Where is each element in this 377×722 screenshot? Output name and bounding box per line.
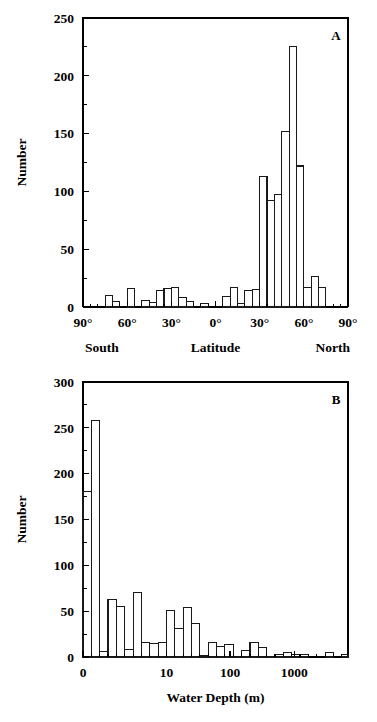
x-tick-label-a: 90° <box>339 315 358 330</box>
histogram-bar <box>112 301 119 307</box>
plot-area-b: 0501001502002503000101001000 <box>54 375 348 680</box>
y-tick-label-b: 50 <box>61 604 75 619</box>
histogram-bar <box>175 629 183 657</box>
histogram-bar <box>150 643 158 657</box>
x-axis-title-a: Latitude <box>191 340 241 355</box>
histogram-bar <box>171 287 178 307</box>
bars-b <box>83 421 348 658</box>
water-depth-histogram-svg: 0501001502002503000101001000NumberWater … <box>0 360 377 722</box>
histogram-bar <box>186 301 193 307</box>
y-tick-label-a: 0 <box>67 300 74 315</box>
histogram-bar <box>83 491 91 657</box>
histogram-bar <box>260 176 267 307</box>
histogram-bar <box>296 166 303 307</box>
x-tick-label-b: 100 <box>220 665 241 680</box>
histogram-bar <box>183 608 191 658</box>
panel-letter-b: B <box>332 392 341 407</box>
histogram-bar <box>127 289 134 307</box>
panel-letter-a: A <box>331 28 341 43</box>
histogram-bar <box>91 421 99 658</box>
histogram-bar <box>275 654 283 657</box>
histogram-bar <box>108 599 116 657</box>
x-tick-label-b: 1000 <box>281 665 308 680</box>
y-tick-label-b: 200 <box>54 466 75 481</box>
histogram-bar <box>274 195 281 307</box>
panel-a-latitude-histogram: 05010015020025090°60°30°0°30°60°90°Numbe… <box>0 0 377 360</box>
histogram-bar <box>238 304 245 307</box>
y-tick-label-a: 100 <box>54 184 75 199</box>
y-tick-label-a: 250 <box>54 11 75 26</box>
hemisphere-label-south: South <box>85 340 119 355</box>
y-tick-label-b: 0 <box>67 650 74 665</box>
x-tick-label-a: 30° <box>250 315 269 330</box>
histogram-bar <box>225 644 233 657</box>
y-axis-title-a: Number <box>14 138 29 186</box>
x-tick-label-a: 90° <box>74 315 93 330</box>
plot-frame-a <box>83 18 348 307</box>
histogram-bar <box>342 654 348 657</box>
plot-area-a: 05010015020025090°60°30°0°30°60°90° <box>54 11 358 330</box>
histogram-bar <box>230 287 237 307</box>
hemisphere-label-north: North <box>316 340 351 355</box>
histogram-bar <box>245 291 252 307</box>
y-tick-label-b: 250 <box>54 421 75 436</box>
x-tick-label-a: 0° <box>209 315 221 330</box>
y-tick-label-a: 50 <box>61 242 75 257</box>
histogram-bar <box>166 610 174 657</box>
histogram-bar <box>267 656 275 657</box>
histogram-bar <box>125 650 133 657</box>
x-tick-label-b: 0 <box>80 665 87 680</box>
histogram-bar <box>325 652 333 657</box>
y-tick-label-a: 200 <box>54 69 75 84</box>
x-tick-label-b: 10 <box>160 665 174 680</box>
y-tick-label-b: 300 <box>54 375 75 390</box>
histogram-bar <box>250 642 258 657</box>
y-axis-title-b: Number <box>14 495 29 543</box>
x-tick-label-a: 60° <box>294 315 313 330</box>
histogram-bar <box>304 287 311 307</box>
histogram-bar <box>311 277 318 307</box>
histogram-bar <box>223 297 230 307</box>
latitude-histogram-svg: 05010015020025090°60°30°0°30°60°90°Numbe… <box>0 0 377 360</box>
histogram-bar <box>233 656 241 657</box>
y-tick-label-b: 150 <box>54 512 75 527</box>
histogram-bar <box>292 654 300 657</box>
histogram-bar <box>157 291 164 307</box>
histogram-bar <box>133 593 141 657</box>
panel-b-water-depth-histogram: 0501001502002503000101001000NumberWater … <box>0 360 377 722</box>
histogram-bar <box>282 131 289 307</box>
histogram-bar <box>289 47 296 307</box>
histogram-bar <box>252 290 259 307</box>
histogram-bar <box>208 642 216 657</box>
x-axis-title-b: Water Depth (m) <box>167 690 265 705</box>
histogram-bar <box>141 642 149 657</box>
histogram-bar <box>242 651 250 657</box>
histogram-bar <box>105 295 112 307</box>
histogram-bar <box>158 642 166 657</box>
figure-container: 05010015020025090°60°30°0°30°60°90°Numbe… <box>0 0 377 722</box>
histogram-bar <box>179 298 186 307</box>
histogram-bar <box>149 302 156 307</box>
histogram-bar <box>258 648 266 657</box>
histogram-bar <box>319 287 326 307</box>
histogram-bar <box>192 623 200 657</box>
histogram-bar <box>142 300 149 307</box>
histogram-bar <box>300 654 308 657</box>
histogram-bar <box>283 652 291 657</box>
histogram-bar <box>267 201 274 307</box>
x-tick-label-a: 60° <box>118 315 137 330</box>
histogram-bar <box>201 304 208 307</box>
histogram-bar <box>164 289 171 307</box>
y-tick-label-a: 150 <box>54 126 75 141</box>
histogram-bar <box>116 607 124 657</box>
y-tick-label-b: 100 <box>54 558 75 573</box>
bars-a <box>105 47 326 307</box>
histogram-bar <box>100 652 108 658</box>
histogram-bar <box>200 655 208 657</box>
x-tick-label-a: 30° <box>162 315 181 330</box>
histogram-bar <box>217 647 225 657</box>
